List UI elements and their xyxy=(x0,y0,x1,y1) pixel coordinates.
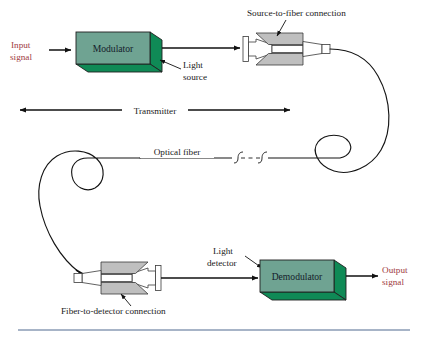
modulator-bottom-face xyxy=(76,64,162,72)
fiber-break-symbol xyxy=(232,150,268,166)
optical-fiber-label: Optical fiber xyxy=(154,147,201,157)
output-signal-label-line1: Output xyxy=(382,265,408,275)
connector-end-cap xyxy=(322,45,330,54)
connector-left-plate xyxy=(243,37,249,62)
connector-ferrule xyxy=(303,42,322,57)
optical-link-diagram: Input signal Modulator Light source Sour… xyxy=(0,0,427,339)
input-signal-label-line1: Input xyxy=(11,40,31,50)
modulator-label: Modulator xyxy=(93,43,134,54)
connector-channel xyxy=(272,46,303,53)
fiber-to-detector-label: Fiber-to-detector connection xyxy=(61,306,166,316)
demodulator-bottom-face xyxy=(260,292,346,300)
source-to-fiber-label: Source-to-fiber connection xyxy=(247,8,346,18)
rx-connector-right-plate xyxy=(156,266,162,291)
demodulator-label: Demodulator xyxy=(272,271,323,282)
transmitter-label: Transmitter xyxy=(134,106,177,116)
output-signal-label-line2: signal xyxy=(382,277,404,287)
rx-connector-end-cap xyxy=(74,274,82,283)
canvas-background xyxy=(0,0,427,339)
input-signal-label-line2: signal xyxy=(10,52,32,62)
light-detector-label-line1: Light xyxy=(213,246,233,256)
modulator-block: Modulator xyxy=(76,32,162,72)
light-detector-label-line2: detector xyxy=(207,258,237,268)
rx-connector-channel xyxy=(101,275,132,282)
demodulator-block: Demodulator xyxy=(260,260,346,300)
light-source-label-line1: Light xyxy=(183,60,203,70)
light-source-label-line2: source xyxy=(183,72,207,82)
rx-connector-ferrule xyxy=(82,271,101,286)
